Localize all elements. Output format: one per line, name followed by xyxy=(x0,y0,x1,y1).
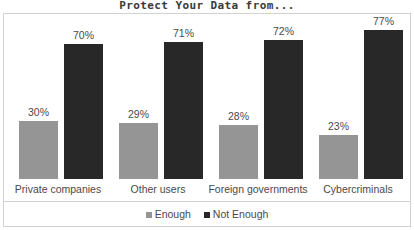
chart-plot-area: 30%70%29%71%28%72%23%77% xyxy=(4,14,412,179)
bar-enough[interactable]: 29% xyxy=(119,14,158,179)
bar-value-label: 77% xyxy=(355,15,412,27)
bar-enough[interactable]: 28% xyxy=(219,14,258,179)
bar-rect[interactable] xyxy=(364,30,403,179)
bar-rect[interactable] xyxy=(219,125,258,179)
bar-enough[interactable]: 23% xyxy=(319,14,358,179)
category-label: Foreign governments xyxy=(208,183,308,195)
chart-title: Protect Your Data from... xyxy=(0,0,414,12)
bar-notenough[interactable]: 72% xyxy=(264,14,303,179)
category-label: Other users xyxy=(108,183,208,195)
bar-value-label: 28% xyxy=(210,110,267,122)
legend-swatch-not-enough-icon xyxy=(204,212,210,218)
chart-legend: Enough Not Enough xyxy=(4,202,410,226)
bar-group: 29%71% xyxy=(108,14,208,179)
bar-rect[interactable] xyxy=(64,44,103,179)
legend-item-not-enough[interactable]: Not Enough xyxy=(204,208,268,220)
bar-notenough[interactable]: 71% xyxy=(164,14,203,179)
bar-rect[interactable] xyxy=(264,40,303,179)
bar-value-label: 72% xyxy=(255,25,312,37)
bar-value-label: 30% xyxy=(10,106,67,118)
bar-rect[interactable] xyxy=(164,42,203,179)
bar-group: 30%70% xyxy=(8,14,108,179)
bar-value-label: 71% xyxy=(155,27,212,39)
bar-group: 23%77% xyxy=(308,14,408,179)
bar-notenough[interactable]: 70% xyxy=(64,14,103,179)
bar-notenough[interactable]: 77% xyxy=(364,14,403,179)
legend-label-not-enough: Not Enough xyxy=(213,208,268,220)
bar-rect[interactable] xyxy=(119,123,158,179)
bar-value-label: 70% xyxy=(55,29,112,41)
bar-chart: Protect Your Data from... 30%70%29%71%28… xyxy=(0,0,414,230)
category-axis: Private companiesOther usersForeign gove… xyxy=(4,179,412,201)
chart-plot-frame: 30%70%29%71%28%72%23%77% Private compani… xyxy=(3,13,411,227)
category-label: Private companies xyxy=(8,183,108,195)
bar-value-label: 29% xyxy=(110,108,167,120)
bar-value-label: 23% xyxy=(310,120,367,132)
legend-label-enough: Enough xyxy=(155,208,191,220)
legend-swatch-enough-icon xyxy=(146,212,152,218)
bar-rect[interactable] xyxy=(19,121,58,179)
bar-rect[interactable] xyxy=(319,135,358,179)
category-label: Cybercriminals xyxy=(308,183,408,195)
bar-group: 28%72% xyxy=(208,14,308,179)
legend-item-enough[interactable]: Enough xyxy=(146,208,191,220)
bar-enough[interactable]: 30% xyxy=(19,14,58,179)
